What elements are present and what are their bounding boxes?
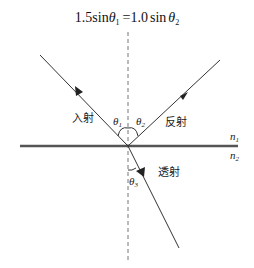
angle-arc-theta3 [128,168,136,170]
refraction-diagram: 1.5sinθ1=1.0sinθ2 θ1 θ2 θ3 入射 反射 透射 n1 n… [0,0,254,268]
incident-ray [40,55,128,146]
theta3-label: θ3 [129,175,138,189]
theta1-label: θ1 [113,115,122,129]
transmitted-arrow-icon [136,167,145,177]
incident-arrow-icon [75,86,83,96]
transmitted-ray [128,146,179,248]
incident-label: 入射 [72,111,94,125]
angle-arc-theta2 [128,128,138,136]
medium-n1-label: n1 [230,130,239,144]
medium-n2-label: n2 [230,149,240,163]
reflected-ray [128,60,220,146]
snell-equation: 1.5sinθ1=1.0sinθ2 [75,10,179,27]
theta2-label: θ2 [136,115,145,129]
transmitted-label: 透射 [158,165,180,179]
reflected-label: 反射 [165,115,187,129]
